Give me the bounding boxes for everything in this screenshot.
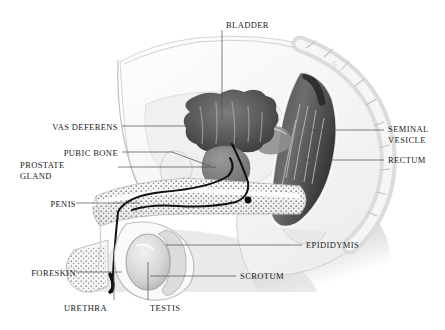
label-epididymis: EPIDIDYMIS: [306, 240, 359, 251]
label-foreskin: FORESKIN: [16, 268, 76, 279]
label-seminal-line1: SEMINAL: [388, 124, 429, 134]
label-bladder: BLADDER: [226, 20, 269, 31]
label-seminal-vesicle: SEMINALVESICLE: [388, 124, 429, 146]
label-pubic-bone: PUBIC BONE: [28, 148, 118, 159]
label-penis: PENIS: [26, 199, 76, 210]
label-prostate-gland: PROSTATEGLAND: [20, 160, 116, 182]
label-urethra: URETHRA: [64, 303, 107, 314]
label-testis: TESTIS: [150, 303, 180, 314]
label-prostate-line1: PROSTATE: [20, 160, 65, 170]
label-vas-deferens: VAS DEFERENS: [28, 122, 118, 133]
label-scrotum: SCROTUM: [240, 271, 284, 282]
leader-pubic-bone: [122, 152, 210, 166]
anatomy-diagram: L5: [0, 0, 445, 330]
label-seminal-line2: VESICLE: [388, 135, 426, 145]
label-prostate-line2: GLAND: [20, 171, 52, 181]
label-rectum: RECTUM: [388, 155, 426, 166]
